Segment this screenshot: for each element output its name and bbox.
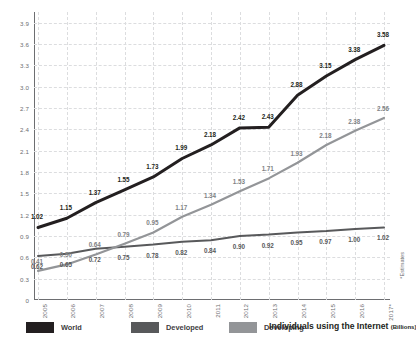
data-label-world-2016: 3.38 xyxy=(348,45,360,52)
x-tick-label: 2009 xyxy=(156,304,163,318)
data-label-world-2011: 2.18 xyxy=(204,130,216,137)
estimates-footnote: *Estimates xyxy=(399,252,405,279)
x-tick-label: 2017* xyxy=(387,304,394,321)
data-label-developed-2007: 0.72 xyxy=(89,255,101,262)
y-tick-label: 0 xyxy=(25,297,29,304)
y-tick-label: 1.8 xyxy=(20,169,29,176)
x-tick-label: 2016 xyxy=(358,304,365,318)
data-label-developed-2016: 1.00 xyxy=(348,235,360,242)
chart-title-text: Individuals using the Internet xyxy=(269,321,388,331)
data-label-developed-2009: 0.78 xyxy=(146,251,158,258)
data-label-world-2008: 1.55 xyxy=(117,175,129,182)
data-label-developed-2014: 0.95 xyxy=(290,239,302,246)
y-tick-label: 2.1 xyxy=(20,147,29,154)
y-tick-label: 1.2 xyxy=(20,211,29,218)
data-label-developed-2008: 0.75 xyxy=(117,253,129,260)
chart-legend: WorldDevelopedDeveloping Individuals usi… xyxy=(26,322,406,338)
legend-swatch-icon xyxy=(26,322,54,333)
x-tick-label: 2015 xyxy=(329,304,336,318)
data-label-world-2015: 3.15 xyxy=(319,62,331,69)
data-label-world-2007: 1.37 xyxy=(89,188,101,195)
x-tick-label: 2005 xyxy=(41,304,48,318)
data-label-world-2014: 2.88 xyxy=(290,81,302,88)
data-label-developed-2017: 1.02 xyxy=(377,234,389,241)
legend-item-world[interactable]: World xyxy=(26,322,82,333)
chart-title-unit: (Billions) xyxy=(391,324,416,330)
y-tick-label: 0.6 xyxy=(20,254,29,261)
data-label-developed-2012: 0.90 xyxy=(233,243,245,250)
x-tick-label: 2013 xyxy=(271,304,278,318)
y-tick-label: 0.3 xyxy=(20,275,29,282)
data-label-developing-2016: 2.38 xyxy=(348,117,360,124)
data-label-developed-2013: 0.92 xyxy=(262,241,274,248)
x-tick-label: 2010 xyxy=(185,304,192,318)
data-label-developed-2006: 0.65 xyxy=(60,260,72,267)
data-label-developing-2012: 1.53 xyxy=(233,178,245,185)
data-label-developing-2010: 1.17 xyxy=(175,203,187,210)
data-label-developing-2007: 0.64 xyxy=(89,241,101,248)
x-tick-label: 2007 xyxy=(98,304,105,318)
y-tick-label: 1.5 xyxy=(20,190,29,197)
y-tick-label: 3.3 xyxy=(20,62,29,69)
x-tick-label: 2006 xyxy=(69,304,76,318)
x-tick-label: 2008 xyxy=(127,304,134,318)
data-label-developed-2011: 0.84 xyxy=(204,247,216,254)
x-tick-label: 2011 xyxy=(214,304,221,318)
data-label-world-2006: 1.15 xyxy=(60,204,72,211)
chart-title-block: Individuals using the Internet (Billions… xyxy=(269,321,416,331)
data-label-world-2009: 1.73 xyxy=(146,162,158,169)
y-tick-label: 3.0 xyxy=(20,83,29,90)
data-label-world-2012: 2.42 xyxy=(233,113,245,120)
legend-label: Developed xyxy=(166,323,203,332)
data-label-developed-2010: 0.82 xyxy=(175,248,187,255)
data-label-developing-2005: 0.41 xyxy=(31,257,43,264)
data-label-world-2010: 1.99 xyxy=(175,144,187,151)
data-label-world-2013: 2.43 xyxy=(262,113,274,120)
y-tick-label: 3.9 xyxy=(20,19,29,26)
y-tick-label: 0.9 xyxy=(20,233,29,240)
y-tick-label: 3.6 xyxy=(20,41,29,48)
data-label-developing-2013: 1.71 xyxy=(262,165,274,172)
series-lines xyxy=(34,12,390,300)
data-label-world-2017: 3.58 xyxy=(377,31,389,38)
legend-swatch-icon xyxy=(229,322,257,333)
legend-item-developed[interactable]: Developed xyxy=(131,322,203,333)
data-label-developing-2017: 2.56 xyxy=(377,104,389,111)
data-label-developing-2015: 2.18 xyxy=(319,131,331,138)
data-label-developing-2008: 0.79 xyxy=(117,230,129,237)
x-tick-label: 2012 xyxy=(242,304,249,318)
data-label-developing-2009: 0.95 xyxy=(146,219,158,226)
y-tick-label: 2.7 xyxy=(20,105,29,112)
x-tick-label: 2014 xyxy=(300,304,307,318)
data-label-developed-2015: 0.97 xyxy=(319,238,331,245)
data-label-developing-2006: 0.50 xyxy=(60,251,72,258)
data-label-world-2005: 1.02 xyxy=(31,213,43,220)
data-label-developing-2011: 1.34 xyxy=(204,191,216,198)
legend-label: World xyxy=(61,323,82,332)
y-tick-label: 2.4 xyxy=(20,126,29,133)
plot-area: 00.30.60.91.21.51.82.12.42.73.03.33.63.9… xyxy=(34,12,390,300)
data-label-developing-2014: 1.93 xyxy=(290,149,302,156)
legend-swatch-icon xyxy=(131,322,159,333)
